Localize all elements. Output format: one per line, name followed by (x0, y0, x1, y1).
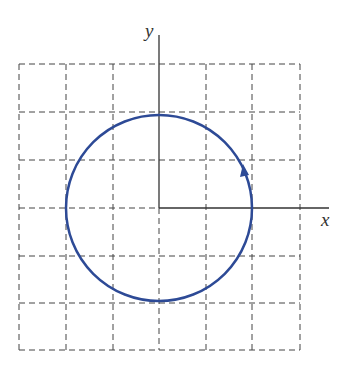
diagram-canvas: y x (0, 0, 349, 370)
y-axis-label: y (143, 20, 154, 41)
axes (159, 35, 329, 208)
x-axis-label: x (320, 209, 330, 230)
